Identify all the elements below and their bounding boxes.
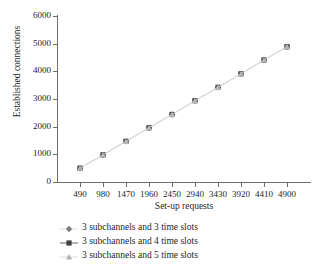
y-tick-label: 1000 xyxy=(7,149,51,158)
x-tick-mark xyxy=(103,183,104,187)
y-tick-label: 0 xyxy=(7,177,51,186)
x-tick-mark xyxy=(264,183,265,187)
x-axis-line xyxy=(57,182,311,183)
data-point-marker xyxy=(66,240,71,245)
plot-area xyxy=(57,16,310,182)
legend-item[interactable]: 3 subchannels and 3 time slots xyxy=(56,220,286,234)
x-tick-label: 4900 xyxy=(267,189,307,199)
legend-triangle-icon xyxy=(56,249,82,261)
x-tick-mark xyxy=(241,183,242,187)
x-tick-mark xyxy=(218,183,219,187)
x-axis-title: Set-up requests xyxy=(57,201,311,212)
legend-diamond-icon xyxy=(56,221,82,233)
legend-label: 3 subchannels and 3 time slots xyxy=(82,221,198,233)
chart-figure: 0100020003000400050006000 49098014701960… xyxy=(0,0,326,271)
x-tick-mark xyxy=(195,183,196,187)
x-tick-mark xyxy=(287,183,288,187)
legend-label: 3 subchannels and 4 time slots xyxy=(82,235,198,247)
legend-item[interactable]: 3 subchannels and 4 time slots xyxy=(56,234,286,248)
x-tick-mark xyxy=(80,183,81,187)
legend-item[interactable]: 3 subchannels and 5 time slots xyxy=(56,248,286,262)
x-tick-mark xyxy=(149,183,150,187)
x-tick-mark xyxy=(126,183,127,187)
legend-square-icon xyxy=(56,235,82,247)
series-line xyxy=(80,47,287,168)
legend-label: 3 subchannels and 5 time slots xyxy=(82,249,198,261)
y-axis-title: Established connections xyxy=(12,12,23,132)
chart-legend: 3 subchannels and 3 time slots3 subchann… xyxy=(56,220,286,262)
data-point-marker xyxy=(66,226,72,232)
y-tick-mark xyxy=(53,182,57,183)
x-tick-mark xyxy=(172,183,173,187)
data-series-layer xyxy=(57,16,310,182)
